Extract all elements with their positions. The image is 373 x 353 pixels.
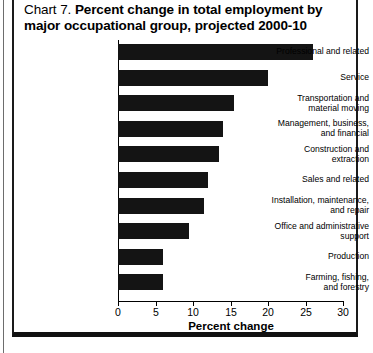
x-tick-label-0: 0 xyxy=(103,306,133,318)
category-label-line: and repair xyxy=(261,206,369,216)
bar xyxy=(118,249,163,265)
bar xyxy=(118,172,208,188)
x-tick-label-5: 5 xyxy=(141,306,171,318)
category-label: Professional and related xyxy=(261,47,373,57)
category-label: Management, business,and financial xyxy=(261,119,373,138)
x-tick-label-15: 15 xyxy=(216,306,246,318)
category-label: Installation, maintenance,and repair xyxy=(261,196,373,215)
category-label-line: Service xyxy=(261,73,369,83)
category-label: Office and administrativesupport xyxy=(261,222,373,241)
category-label-line: material moving xyxy=(261,104,369,114)
category-label: Transportation andmaterial moving xyxy=(261,94,373,113)
category-label-line: Sales and related xyxy=(261,175,369,185)
bar xyxy=(118,146,219,162)
bar xyxy=(118,70,268,86)
x-tick-label-25: 25 xyxy=(291,306,321,318)
x-tick-label-30: 30 xyxy=(328,306,358,318)
category-label-line: Professional and related xyxy=(261,47,369,57)
category-label: Construction andextraction xyxy=(261,145,373,164)
category-label-line: and forestry xyxy=(261,283,369,293)
x-axis-title: Percent change xyxy=(118,320,344,332)
chart-page: Chart 7. Percent change in total employm… xyxy=(0,0,373,353)
category-label-line: Production xyxy=(261,252,369,262)
bar xyxy=(118,121,223,137)
x-tick-label-10: 10 xyxy=(178,306,208,318)
bar xyxy=(118,95,234,111)
category-label: Sales and related xyxy=(261,175,373,185)
bar xyxy=(118,198,204,214)
category-label-line: support xyxy=(261,232,369,242)
x-tick-label-20: 20 xyxy=(253,306,283,318)
category-label: Service xyxy=(261,73,373,83)
category-label-line: and financial xyxy=(261,129,369,139)
bar xyxy=(118,274,163,290)
category-label: Production xyxy=(261,252,373,262)
plot-area: 051015202530 Professional and relatedSer… xyxy=(0,0,373,353)
category-label-line: extraction xyxy=(261,155,369,165)
bar xyxy=(118,223,189,239)
category-label: Farming, fishing,and forestry xyxy=(261,273,373,292)
